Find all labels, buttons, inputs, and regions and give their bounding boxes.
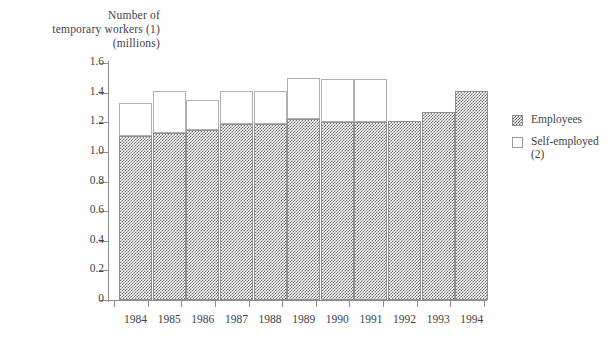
- bar-1992: [388, 121, 421, 300]
- bar-segment-self-employed: [153, 91, 186, 132]
- legend-label-self-employed: Self-employed (2): [531, 135, 599, 161]
- y-axis-tick-label: 0: [98, 292, 104, 304]
- bar-segment-employees: [220, 124, 253, 300]
- chart-axis-title: Number of temporary workers (1) (million…: [0, 8, 160, 50]
- bar-segment-self-employed: [287, 78, 320, 119]
- bar-segment-employees: [153, 133, 186, 300]
- y-axis-tick-label: 1.0: [90, 144, 104, 156]
- bar-1988: [254, 91, 287, 300]
- bar-1986: [186, 100, 219, 300]
- legend-item-self-employed[interactable]: Self-employed (2): [512, 135, 599, 161]
- bar-segment-employees: [119, 136, 152, 300]
- y-axis-tick-label: 1.4: [90, 85, 104, 97]
- bar-1994: [455, 91, 488, 300]
- x-axis-line: [108, 300, 487, 301]
- bar-1993: [422, 112, 455, 300]
- x-axis-tick: [249, 300, 250, 307]
- bar-segment-employees: [287, 119, 320, 300]
- plot-area: 00.20.40.60.81.01.21.41.6: [108, 63, 487, 300]
- y-axis-tick-label: 0.6: [90, 203, 104, 215]
- x-axis-tick: [114, 300, 115, 307]
- bar-segment-employees: [388, 121, 421, 300]
- bar-segment-employees: [321, 122, 354, 300]
- y-axis-tick-label: 0.2: [90, 262, 104, 274]
- legend-label-employees: Employees: [531, 113, 582, 126]
- checkered-swatch-icon: [512, 115, 523, 126]
- bar-segment-employees: [186, 130, 219, 300]
- x-axis-tick: [417, 300, 418, 307]
- bar-1987: [220, 91, 253, 300]
- open-swatch-icon: [512, 137, 523, 148]
- y-axis-tick-label: 1.2: [90, 114, 104, 126]
- x-axis-tick: [484, 300, 485, 307]
- bar-segment-self-employed: [220, 91, 253, 124]
- chart-canvas: Number of temporary workers (1) (million…: [0, 0, 615, 346]
- bar-segment-self-employed: [186, 100, 219, 130]
- y-axis-tick-label: 0.4: [90, 233, 104, 245]
- bar-segment-employees: [254, 124, 287, 300]
- bar-1984: [119, 103, 152, 300]
- bar-segment-self-employed: [354, 79, 387, 122]
- chart-legend: Employees Self-employed (2): [512, 113, 599, 170]
- bar-segment-self-employed: [119, 103, 152, 136]
- bar-segment-employees: [455, 91, 488, 300]
- y-axis-tick-label: 1.6: [90, 55, 104, 67]
- x-axis-tick: [316, 300, 317, 307]
- x-axis-tick: [383, 300, 384, 307]
- x-axis-tick: [181, 300, 182, 307]
- x-axis-label-1994: 1994: [449, 313, 495, 325]
- y-axis-tick-label: 0.8: [90, 174, 104, 186]
- x-axis-tick: [148, 300, 149, 307]
- bar-1989: [287, 78, 320, 300]
- bar-segment-employees: [422, 112, 455, 300]
- bar-1991: [354, 79, 387, 300]
- bar-segment-self-employed: [321, 79, 354, 122]
- x-axis-tick: [282, 300, 283, 307]
- bar-segment-self-employed: [254, 91, 287, 124]
- bar-1985: [153, 91, 186, 300]
- bar-1990: [321, 79, 354, 300]
- y-axis-line: [108, 61, 109, 302]
- bar-segment-employees: [354, 122, 387, 300]
- x-axis-tick: [450, 300, 451, 307]
- x-axis-tick: [215, 300, 216, 307]
- legend-item-employees[interactable]: Employees: [512, 113, 599, 126]
- x-axis-tick: [349, 300, 350, 307]
